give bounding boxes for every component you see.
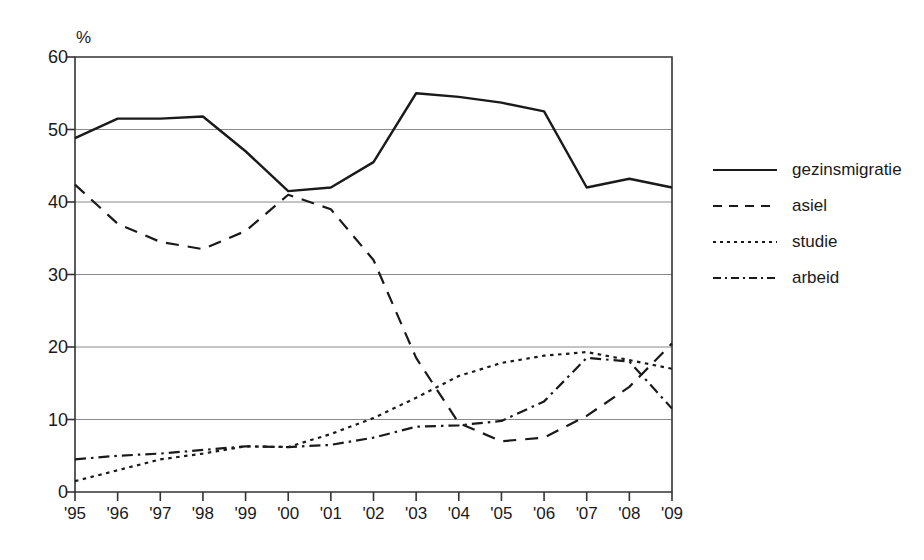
legend-label: asiel: [792, 196, 827, 216]
legend-item-studie[interactable]: studie: [712, 224, 912, 260]
x-axis-tick-label: '96: [107, 504, 129, 524]
x-axis-tick-label: '04: [448, 504, 470, 524]
legend-swatch-dashdot-icon: [712, 271, 778, 285]
legend-swatch-dashed-icon: [712, 199, 778, 213]
x-axis-tick-label: '07: [576, 504, 598, 524]
legend-item-asiel[interactable]: asiel: [712, 188, 912, 224]
series-line-gezinsmigratie: [75, 93, 672, 191]
x-axis-tick-label: '08: [618, 504, 640, 524]
x-axis-tick-label: '06: [533, 504, 555, 524]
x-axis-tick-label: '00: [277, 504, 299, 524]
x-axis-tick-label: '99: [234, 504, 256, 524]
chart-legend: gezinsmigratie asiel studie arbeid: [712, 152, 912, 296]
legend-label: gezinsmigratie: [792, 160, 902, 180]
series-line-arbeid: [75, 358, 672, 460]
x-axis-tick-label: '97: [149, 504, 171, 524]
legend-item-arbeid[interactable]: arbeid: [712, 260, 912, 296]
legend-label: studie: [792, 232, 837, 252]
series-line-studie: [75, 352, 672, 481]
x-axis-tick-label: '09: [661, 504, 683, 524]
x-axis-tick-label: '98: [192, 504, 214, 524]
x-axis-tick-label: '01: [320, 504, 342, 524]
legend-swatch-solid-icon: [712, 163, 778, 177]
x-axis-tick-label: '05: [490, 504, 512, 524]
series-line-asiel: [75, 185, 672, 442]
x-axis-tick-label: '02: [362, 504, 384, 524]
x-axis-tick-label: '95: [64, 504, 86, 524]
x-axis-tick-label: '03: [405, 504, 427, 524]
legend-label: arbeid: [792, 268, 839, 288]
legend-item-gezinsmigratie[interactable]: gezinsmigratie: [712, 152, 912, 188]
line-chart: % 0102030405060 '95'96'97'98'99'00'01'02…: [0, 0, 924, 560]
legend-swatch-dotted-icon: [712, 235, 778, 249]
